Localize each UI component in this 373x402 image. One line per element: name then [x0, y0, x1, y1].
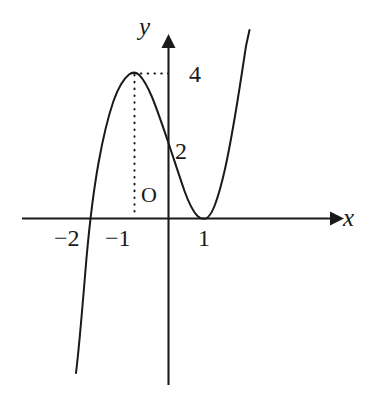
y-axis-label: y: [139, 14, 150, 39]
x-axis-arrowhead: [330, 212, 344, 226]
cubic-curve: [76, 30, 250, 373]
function-graph-figure: y x O 4 2 −2 −1 1: [0, 0, 373, 402]
y-tick-label-2: 2: [175, 139, 187, 163]
graph-canvas: [0, 0, 373, 402]
y-axis-arrowhead: [162, 34, 176, 48]
x-axis-label: x: [343, 205, 354, 230]
x-tick-label-1: 1: [198, 226, 210, 250]
x-tick-label-neg1: −1: [105, 226, 131, 250]
origin-label: O: [141, 184, 157, 206]
y-tick-label-4: 4: [189, 62, 201, 86]
x-tick-label-neg2: −2: [54, 226, 80, 250]
